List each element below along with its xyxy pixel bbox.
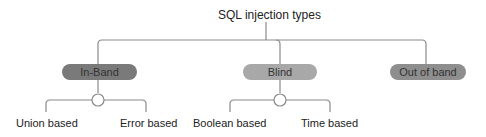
leaf-union-based: Union based xyxy=(16,117,78,129)
leaf-boolean-based: Boolean based xyxy=(193,117,266,129)
node-blind: Blind xyxy=(243,64,317,80)
junction-circle xyxy=(274,94,286,106)
node-out-of-band: Out of band xyxy=(390,64,466,80)
leaf-error-based: Error based xyxy=(120,117,177,129)
junction-circle xyxy=(92,94,104,106)
node-in-band: In-Band xyxy=(62,64,137,80)
diagram-title: SQL injection types xyxy=(218,8,321,22)
leaf-time-based: Time based xyxy=(301,117,358,129)
